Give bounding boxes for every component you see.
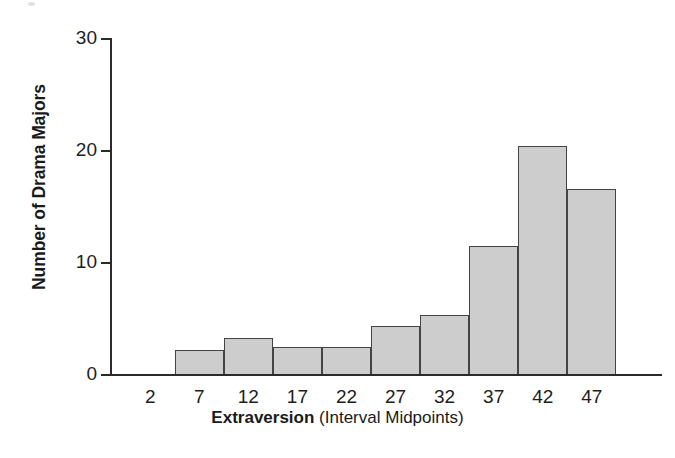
y-tick-label: 30 — [76, 27, 97, 49]
x-tick-label-7: 7 — [194, 386, 205, 408]
bar-7 — [175, 350, 224, 374]
x-tick-label-12: 12 — [238, 386, 259, 408]
x-tick-label-47: 47 — [581, 386, 602, 408]
x-tick-label-32: 32 — [434, 386, 455, 408]
bar-12 — [224, 338, 273, 374]
y-tick-mark — [101, 38, 110, 40]
bar-47 — [567, 189, 616, 374]
x-axis-line — [110, 374, 662, 376]
y-axis-line — [110, 38, 112, 374]
bar-22 — [322, 347, 371, 374]
plot-area: 0102030 271217222732374247 — [110, 38, 662, 374]
x-tick-label-27: 27 — [385, 386, 406, 408]
x-axis-title-bold: Extraversion — [211, 408, 314, 427]
y-tick-label: 10 — [76, 251, 97, 273]
histogram-figure: Number of Drama Majors 0102030 271217222… — [0, 0, 675, 458]
x-tick-label-2: 2 — [145, 386, 156, 408]
bar-17 — [273, 347, 322, 374]
y-tick-mark — [101, 262, 110, 264]
x-tick-label-42: 42 — [532, 386, 553, 408]
y-tick-mark — [101, 150, 110, 152]
y-tick-label: 20 — [76, 139, 97, 161]
y-tick-mark — [101, 374, 110, 376]
y-axis-title: Number of Drama Majors — [26, 0, 52, 374]
bar-37 — [469, 246, 518, 374]
bar-27 — [371, 326, 420, 374]
x-axis-title-regular: (Interval Midpoints) — [314, 408, 463, 427]
x-tick-label-17: 17 — [287, 386, 308, 408]
bar-42 — [518, 146, 567, 374]
x-axis-title: Extraversion (Interval Midpoints) — [0, 408, 675, 428]
x-tick-label-22: 22 — [336, 386, 357, 408]
y-tick-label: 0 — [86, 363, 97, 385]
x-tick-label-37: 37 — [483, 386, 504, 408]
bar-32 — [420, 315, 469, 374]
